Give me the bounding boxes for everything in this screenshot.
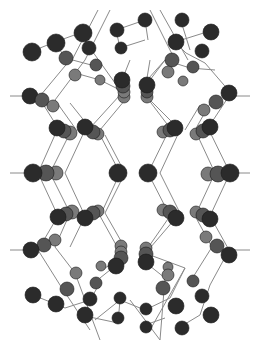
atom-dark [195, 44, 209, 58]
atom-dark [110, 23, 124, 37]
atom-light [198, 104, 210, 116]
atom-dark [24, 164, 42, 182]
crystal-lattice-diagram [0, 0, 255, 349]
bond-line [38, 250, 60, 285]
atom-dark [83, 292, 97, 306]
atom-light [69, 69, 81, 81]
atom-mid [90, 277, 102, 289]
atom-dark [140, 321, 152, 333]
atom-mid [187, 61, 199, 73]
bond-line [55, 60, 85, 100]
atom-dark [48, 296, 64, 312]
atom-dark [221, 247, 237, 263]
atom-dark [25, 287, 41, 303]
atom-mid [209, 95, 223, 109]
atom-dark [139, 164, 157, 182]
atom-dark [140, 303, 152, 315]
atom-dark [202, 211, 218, 227]
atom-dark [74, 24, 92, 42]
atom-dark [114, 72, 130, 88]
atom-dark [175, 13, 189, 27]
atom-dark [108, 258, 124, 274]
atom-light [162, 269, 174, 281]
atom-dark [77, 307, 93, 323]
atom-light [70, 267, 82, 279]
atom-dark [109, 164, 127, 182]
atom-mid [165, 53, 179, 67]
atom-dark [23, 242, 39, 258]
atom-dark [195, 289, 209, 303]
atom-dark [114, 292, 126, 304]
atom-dark [115, 42, 127, 54]
bond-line [150, 10, 175, 60]
bond-line [100, 100, 125, 130]
atom-dark [139, 77, 155, 93]
atom-dark [221, 164, 239, 182]
atom-dark [23, 43, 41, 61]
atom-light [162, 66, 174, 78]
bond-line [40, 60, 70, 96]
atom-mid [59, 51, 73, 65]
atom-mid [90, 59, 102, 71]
atom-dark [175, 321, 189, 335]
atom-light [96, 261, 106, 271]
atom-dark [168, 210, 184, 226]
atom-mid [60, 282, 74, 296]
atom-light [200, 231, 212, 243]
atom-mid [156, 281, 170, 295]
atom-dark [50, 209, 66, 225]
atom-mid [187, 275, 199, 287]
atom-dark [167, 120, 183, 136]
atom-light [178, 76, 188, 86]
atom-dark [203, 307, 219, 323]
atom-dark [221, 85, 237, 101]
atom-dark [138, 254, 154, 270]
atom-dark [82, 41, 96, 55]
atom-dark [77, 210, 93, 226]
atom-dark [112, 312, 124, 324]
atom-dark [49, 120, 65, 136]
lattice-svg [0, 0, 255, 349]
atom-dark [168, 298, 184, 314]
atom-layer [22, 13, 239, 335]
atom-dark [77, 119, 93, 135]
atom-dark [202, 119, 218, 135]
atom-dark [47, 34, 65, 52]
atom-light [47, 100, 59, 112]
atom-dark [203, 24, 219, 40]
atom-light [95, 75, 105, 85]
atom-dark [168, 34, 184, 50]
atom-dark [138, 13, 152, 27]
